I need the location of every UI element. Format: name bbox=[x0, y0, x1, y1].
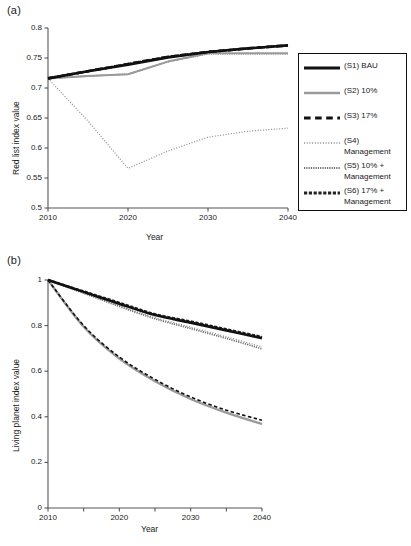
legend-item-label: (S3) 17% bbox=[344, 111, 377, 122]
legend-line-swatch bbox=[304, 188, 340, 198]
y-tick-label: 0.75 bbox=[6, 53, 42, 62]
caption-strip bbox=[0, 538, 411, 546]
series-line bbox=[48, 280, 262, 424]
y-tick-label: 0.55 bbox=[6, 173, 42, 182]
series-line bbox=[48, 78, 288, 168]
y-tick-label: 0.4 bbox=[6, 412, 42, 421]
x-tick-label: 2040 bbox=[244, 513, 280, 522]
y-tick-label: 0.65 bbox=[6, 113, 42, 122]
legend-line-swatch bbox=[304, 113, 340, 123]
y-tick-label: 0.2 bbox=[6, 457, 42, 466]
x-tick-label: 2030 bbox=[173, 513, 209, 522]
x-tick-label: 2010 bbox=[30, 213, 66, 222]
x-tick-label: 2020 bbox=[101, 513, 137, 522]
x-tick-label: 2010 bbox=[30, 513, 66, 522]
panel-b: (b) Living planet index value Year 00.20… bbox=[0, 252, 411, 546]
legend-line-swatch bbox=[304, 63, 340, 73]
y-tick-label: 0.6 bbox=[6, 366, 42, 375]
legend-item-label: (S5) 10% + Management bbox=[344, 161, 391, 182]
legend-item[interactable]: (S6) 17% + Management bbox=[304, 186, 391, 207]
panel-a: (a) Red list index value Year 0.50.550.6… bbox=[0, 0, 411, 250]
y-tick-label: 0.8 bbox=[6, 23, 42, 32]
y-tick-label: 0.7 bbox=[6, 83, 42, 92]
legend-item[interactable]: (S2) 10% bbox=[304, 86, 377, 98]
panel-b-plot bbox=[0, 252, 411, 546]
x-tick-label: 2030 bbox=[190, 213, 226, 222]
y-tick-label: 0.6 bbox=[6, 143, 42, 152]
legend-item-label: (S4) Management bbox=[344, 136, 391, 157]
legend-item[interactable]: (S1) BAU bbox=[304, 61, 378, 73]
series-line bbox=[48, 280, 262, 420]
panel-a-legend: (S1) BAU(S2) 10%(S3) 17%(S4) Management(… bbox=[298, 53, 407, 211]
legend-item-label: (S1) BAU bbox=[344, 61, 378, 72]
legend-line-swatch bbox=[304, 88, 340, 98]
x-tick-label: 2020 bbox=[110, 213, 146, 222]
panel-b-x-axis-title: Year bbox=[141, 524, 158, 534]
y-tick-label: 0.8 bbox=[6, 321, 42, 330]
legend-item-label: (S6) 17% + Management bbox=[344, 186, 391, 207]
legend-line-swatch bbox=[304, 163, 340, 173]
legend-item[interactable]: (S3) 17% bbox=[304, 111, 377, 123]
y-tick-label: 0 bbox=[6, 503, 42, 512]
y-tick-label: 1 bbox=[6, 275, 42, 284]
legend-item[interactable]: (S5) 10% + Management bbox=[304, 161, 391, 182]
legend-line-swatch bbox=[304, 138, 340, 148]
legend-item-label: (S2) 10% bbox=[344, 86, 377, 97]
panel-a-x-axis-title: Year bbox=[146, 232, 163, 242]
x-tick-label: 2040 bbox=[270, 213, 306, 222]
y-tick-label: 0.5 bbox=[6, 203, 42, 212]
series-line bbox=[48, 280, 262, 337]
legend-item[interactable]: (S4) Management bbox=[304, 136, 391, 157]
